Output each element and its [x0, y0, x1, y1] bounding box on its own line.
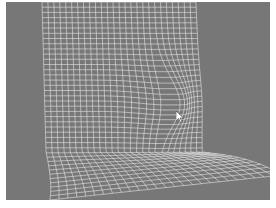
wireframe-mesh: [6, 2, 270, 200]
render-viewport: [6, 2, 270, 200]
mouse-cursor-icon: [176, 111, 184, 123]
